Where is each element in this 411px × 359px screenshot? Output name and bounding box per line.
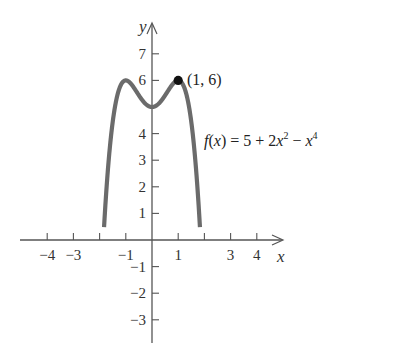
point-layer [174, 76, 183, 85]
x-tick-label: 1 [174, 247, 182, 263]
formula-x: x [213, 132, 221, 149]
y-tick-label: 6 [139, 72, 147, 88]
formula-x2: x [275, 132, 283, 149]
y-tick-label: 7 [139, 46, 147, 62]
highlighted-point [174, 76, 183, 85]
formula-sup4: 4 [313, 130, 318, 141]
x-axis-label: x [276, 247, 285, 266]
x-tick-label: −4 [39, 247, 55, 263]
y-tick-label: 3 [139, 152, 147, 168]
y-tick-label: −3 [130, 312, 146, 328]
formula-x4: x [304, 132, 312, 149]
y-tick-label: −2 [130, 285, 146, 301]
x-tick-label: 4 [253, 247, 261, 263]
y-tick-label: 1 [139, 205, 147, 221]
function-label: f(x) = 5 + 2x2 − x4 [204, 130, 318, 150]
point-label: (1, 6) [187, 71, 222, 89]
function-graph: −4−3−1134−3−2−1123467 y x (1, 6) f(x) = … [0, 0, 411, 359]
x-tick-label: −3 [65, 247, 81, 263]
y-tick-label: −1 [130, 259, 146, 275]
axes [20, 23, 283, 343]
y-tick-label: 2 [139, 179, 147, 195]
y-axis-label: y [137, 17, 147, 36]
y-tick-label: 4 [139, 126, 147, 142]
x-tick-label: 3 [227, 247, 235, 263]
formula-rest: ) = 5 + 2 [221, 132, 276, 150]
ticks: −4−3−1134−3−2−1123467 [39, 46, 261, 328]
formula-minus: − [288, 132, 305, 149]
